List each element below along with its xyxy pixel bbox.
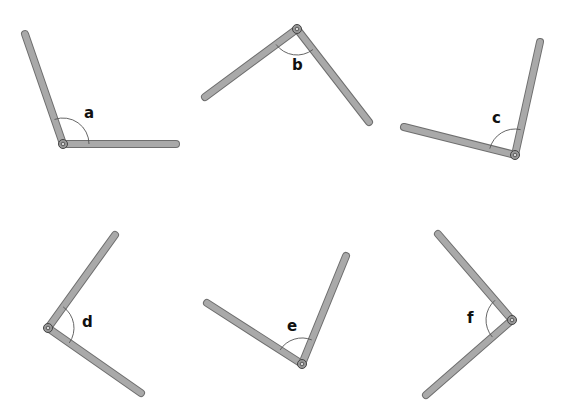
pivot-center-icon <box>295 27 299 31</box>
angles-diagram: abcdef <box>0 0 563 418</box>
rod-arm-1 <box>404 127 515 155</box>
angle-f: f <box>426 234 517 395</box>
angle-c: c <box>404 42 540 160</box>
angle-label: c <box>492 109 501 127</box>
angle-label: e <box>287 317 297 335</box>
pivot-center-icon <box>46 326 50 330</box>
pivot-center-icon <box>510 318 514 322</box>
angle-label: a <box>84 104 94 122</box>
rod-arm-2 <box>48 328 141 393</box>
pivot-center-icon <box>61 142 65 146</box>
rod-arm-1 <box>438 234 512 320</box>
angle-d: d <box>44 235 142 393</box>
rod-arm-1 <box>25 34 63 144</box>
pivot-center-icon <box>300 362 304 366</box>
angle-e: e <box>207 256 346 369</box>
pivot-center-icon <box>513 153 517 157</box>
angle-label: b <box>292 56 303 74</box>
rod-arm-2 <box>302 256 346 364</box>
rod-arm-2 <box>426 320 512 395</box>
angle-a: a <box>25 34 176 149</box>
angle-label: f <box>467 309 474 327</box>
rod-arm-2 <box>515 42 540 155</box>
rod-arm-1 <box>205 29 297 97</box>
rod-arm-2 <box>297 29 369 122</box>
angle-b: b <box>205 25 369 123</box>
angle-label: d <box>82 313 93 331</box>
